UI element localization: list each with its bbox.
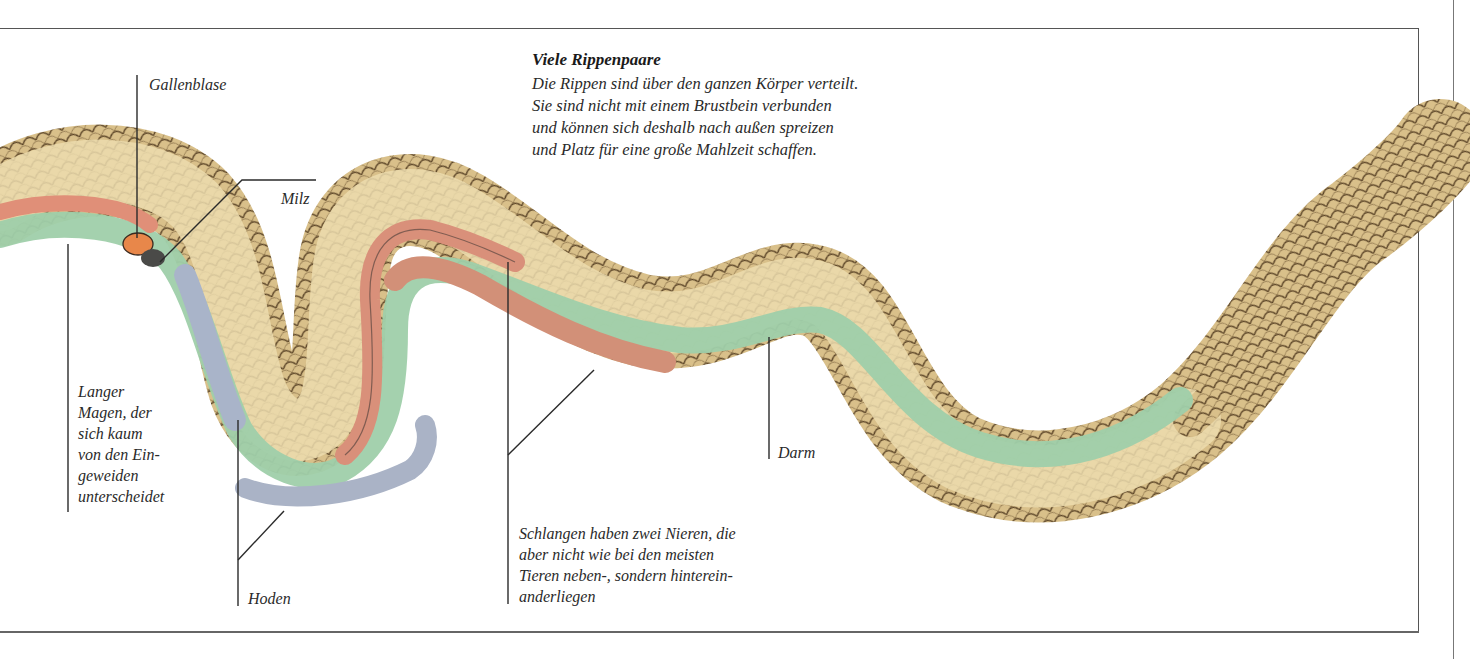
description-line: Sie sind nicht mit einem Brustbein verbu… (532, 95, 858, 117)
label-spleen: Milz (281, 188, 309, 209)
label-testes: Hoden (248, 588, 291, 609)
label-stomach: Langer Magen, der sich kaum von den Ein-… (78, 381, 164, 507)
kidneys-line: Tieren neben-, sondern hinterein- (519, 565, 736, 586)
kidneys-line: aber nicht wie bei den meisten (519, 544, 736, 565)
kidneys-line: anderliegen (519, 586, 736, 607)
kidneys-leader-diagonal (508, 370, 594, 455)
stomach-line: geweiden (78, 465, 164, 486)
diagram-title: Viele Rippenpaare (532, 50, 661, 70)
stomach-line: sich kaum (78, 423, 164, 444)
stomach-line: unterscheidet (78, 486, 164, 507)
description-line: und Platz für eine große Mahlzeit schaff… (532, 139, 858, 161)
stomach-line: Langer (78, 381, 164, 402)
label-gallbladder: Gallenblase (149, 74, 226, 95)
snake-body (0, 143, 1440, 476)
kidneys-line: Schlangen haben zwei Nieren, die (519, 523, 736, 544)
spleen (141, 249, 165, 267)
label-kidneys: Schlangen haben zwei Nieren, die aber ni… (519, 523, 736, 607)
stomach-line: Magen, der (78, 402, 164, 423)
stomach-line: von den Ein- (78, 444, 164, 465)
diagram-description: Die Rippen sind über den ganzen Körper v… (532, 73, 858, 161)
label-intestine: Darm (778, 442, 815, 463)
description-line: und können sich deshalb nach außen sprei… (532, 117, 858, 139)
description-line: Die Rippen sind über den ganzen Körper v… (532, 73, 858, 95)
testes-leader-diagonal (238, 511, 284, 560)
